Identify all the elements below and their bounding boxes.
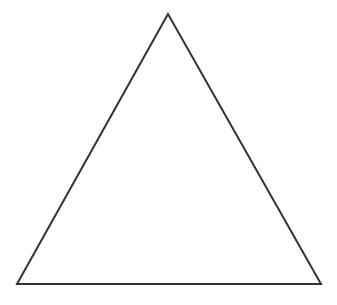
diagram-canvas [0,0,337,305]
triangle-shape [17,14,321,284]
triangle-figure [0,0,337,305]
